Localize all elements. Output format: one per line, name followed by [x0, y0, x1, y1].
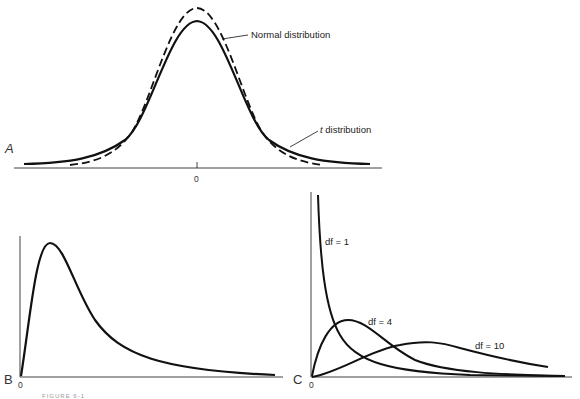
panel-c [311, 192, 572, 377]
t-distribution-label: t distribution [320, 124, 371, 135]
panel-a-zero-label: 0 [194, 174, 199, 184]
panel-c-label: C [293, 372, 302, 387]
panel-b-label: B [4, 372, 13, 387]
t-label-text: distribution [323, 124, 372, 135]
normal-leader-line [222, 35, 248, 39]
panel-b [20, 236, 283, 377]
skewed-density-curve [21, 243, 275, 376]
figure-caption-fragment: FIGURE 6-1 [42, 393, 85, 399]
t-leader-line [290, 131, 318, 147]
df1-label: df = 1 [325, 236, 349, 247]
panel-a-label: A [5, 141, 14, 156]
panel-c-zero-label: 0 [309, 380, 314, 390]
panel-b-zero-label: 0 [18, 380, 23, 390]
df4-label: df = 4 [368, 316, 392, 327]
df1-curve [318, 195, 565, 376]
t-distribution-curve [24, 21, 370, 164]
normal-distribution-label: Normal distribution [251, 29, 330, 40]
df10-label: df = 10 [475, 340, 504, 351]
